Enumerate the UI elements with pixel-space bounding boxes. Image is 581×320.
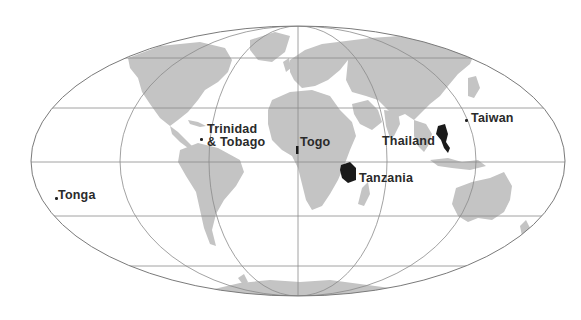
togo-shape — [296, 146, 299, 154]
north-america — [128, 42, 232, 126]
japan — [468, 76, 480, 98]
label-tanzania: Tanzania — [359, 172, 413, 185]
tanzania-shape — [340, 162, 356, 183]
label-trinidad: Trinidad & Tobago — [207, 123, 265, 149]
label-thailand: Thailand — [382, 135, 435, 148]
britain — [283, 58, 291, 72]
world-map — [0, 0, 581, 320]
thailand-shape — [436, 124, 450, 153]
label-taiwan: Taiwan — [471, 112, 514, 125]
trinidad-dot — [200, 138, 203, 141]
arabia — [352, 100, 382, 130]
south-america — [178, 143, 244, 246]
label-togo: Togo — [300, 136, 330, 149]
indonesia — [430, 158, 486, 170]
greenland — [250, 32, 290, 62]
new-zealand — [520, 220, 530, 236]
label-tonga: Tonga — [58, 189, 96, 202]
label-trinidad-line2: & Tobago — [207, 136, 265, 149]
central-america — [170, 126, 192, 148]
landmasses — [128, 32, 530, 298]
europe — [290, 42, 350, 88]
taiwan-dot — [465, 119, 468, 122]
caribbean — [188, 120, 206, 127]
madagascar — [358, 182, 370, 206]
